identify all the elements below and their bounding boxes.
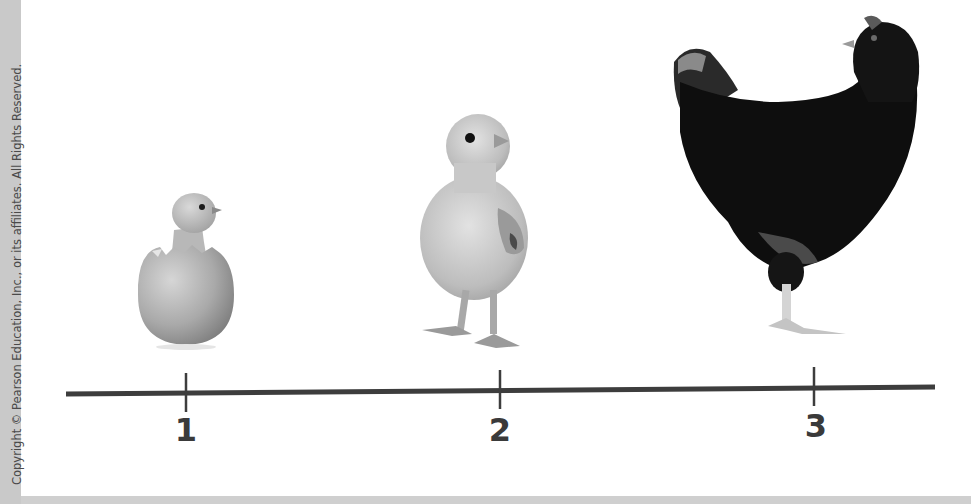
adult-hen-image — [668, 12, 928, 342]
life-cycle-diagram: 1 2 3 — [0, 0, 971, 504]
tick-label-2: 2 — [480, 412, 520, 448]
tick-label-3: 3 — [796, 408, 836, 444]
tick-label-1: 1 — [166, 412, 206, 448]
timeline-line — [66, 387, 935, 394]
young-chick-image — [412, 108, 537, 353]
hatching-chick-image — [130, 185, 245, 355]
